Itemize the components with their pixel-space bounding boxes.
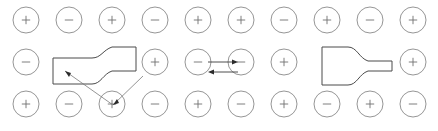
plus-sign-icon: [323, 16, 331, 24]
ion-positive-r2-c0: [13, 91, 39, 117]
ion-positive-r0-c4: [185, 7, 211, 33]
callout-to-region-interior-arrowhead-icon: [65, 71, 71, 77]
plus-sign-icon: [151, 58, 159, 66]
ion-negative-r2-c5: [228, 91, 254, 117]
ion-positive-r1-c3: [142, 49, 168, 75]
plus-sign-icon: [409, 16, 417, 24]
ion-exchange-arrow-pair: [208, 60, 238, 75]
callout-to-region-interior-line: [65, 71, 113, 105]
callout-to-region-edge: [113, 76, 143, 105]
plus-sign-icon: [237, 16, 245, 24]
plus-sign-icon: [194, 16, 202, 24]
diagram-canvas: [0, 0, 438, 131]
left-region-shape: [53, 47, 136, 84]
ion-positive-r0-c9: [400, 7, 426, 33]
plus-sign-icon: [194, 100, 202, 108]
ion-positive-r0-c0: [13, 7, 39, 33]
plus-sign-icon: [280, 100, 288, 108]
arrow-right-arrowhead-icon: [232, 60, 238, 65]
plus-sign-icon: [22, 100, 30, 108]
right-region-shape: [322, 47, 392, 85]
ion-negative-r0-c8: [357, 7, 383, 33]
ion-positive-r1-c9: [400, 49, 426, 75]
plus-sign-icon: [409, 58, 417, 66]
plus-sign-icon: [22, 16, 30, 24]
plus-sign-icon: [366, 100, 374, 108]
ion-negative-r1-c0: [13, 49, 39, 75]
ion-negative-r2-c1: [56, 91, 82, 117]
plus-sign-icon: [280, 58, 288, 66]
exchange-arrows-layer: [208, 60, 238, 75]
ion-negative-r1-c4: [185, 49, 211, 75]
ion-negative-r2-c7: [314, 91, 340, 117]
ion-negative-r0-c1: [56, 7, 82, 33]
region-shapes-layer: [53, 47, 392, 85]
ion-negative-r2-c9: [400, 91, 426, 117]
ion-positive-r2-c4: [185, 91, 211, 117]
ion-negative-r0-c6: [271, 7, 297, 33]
ion-positive-r2-c6: [271, 91, 297, 117]
ion-positive-r0-c7: [314, 7, 340, 33]
ion-negative-r2-c3: [142, 91, 168, 117]
callout-to-region-interior: [65, 71, 113, 105]
ion-positive-r0-c5: [228, 7, 254, 33]
ion-negative-r0-c3: [142, 7, 168, 33]
ion-positive-r0-c2: [99, 7, 125, 33]
ion-positive-r1-c6: [271, 49, 297, 75]
arrow-left-arrowhead-icon: [208, 70, 214, 75]
lattice-diagram: [0, 0, 438, 131]
ion-positive-r2-c8: [357, 91, 383, 117]
plus-sign-icon: [108, 16, 116, 24]
